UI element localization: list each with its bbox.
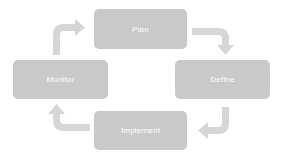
node-define: Define: [175, 60, 270, 99]
node-plan: Plan: [94, 9, 187, 49]
arrow-implement-to-monitor-icon: [48, 104, 90, 131]
arrow-plan-to-define-icon: [192, 28, 234, 55]
node-plan-label: Plan: [132, 25, 149, 34]
arrow-monitor-to-plan-icon: [53, 19, 85, 55]
node-monitor-label: Monitor: [46, 75, 74, 84]
node-monitor: Monitor: [13, 60, 108, 99]
node-implement: Implement: [94, 111, 187, 150]
arrow-define-to-implement-icon: [198, 107, 229, 139]
node-define-label: Define: [210, 75, 234, 84]
node-implement-label: Implement: [121, 126, 160, 135]
cycle-diagram: Plan Define Implement Monitor: [0, 0, 283, 158]
